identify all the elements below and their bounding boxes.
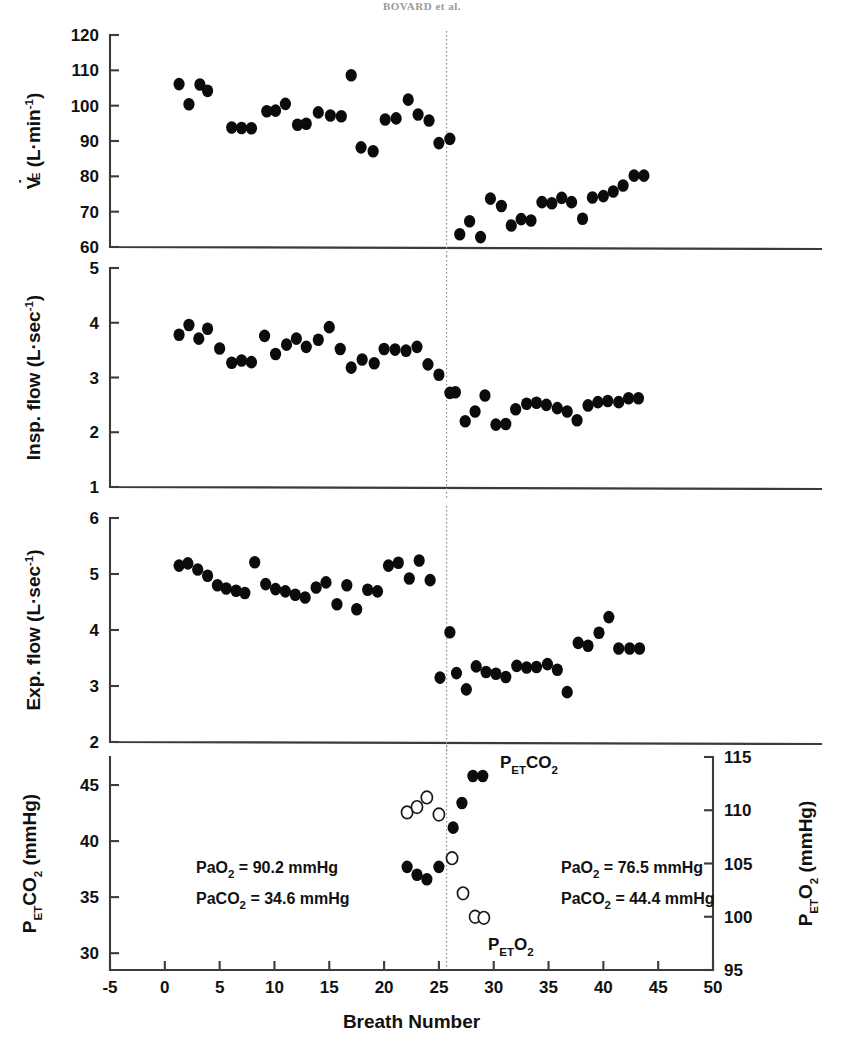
data-point-expiratory-flow (260, 578, 271, 591)
data-point-minute-ventilation (433, 137, 444, 150)
data-point-inspiratory-flow (433, 368, 444, 381)
data-point-inspiratory-flow (400, 344, 411, 357)
data-point-inspiratory-flow (193, 332, 204, 345)
y-tick-label: 4 (90, 314, 100, 333)
data-point-expiratory-flow (320, 576, 331, 589)
data-point-inspiratory-flow (259, 330, 270, 343)
data-point-inspiratory-flow (183, 319, 194, 332)
data-point-petco2 (421, 873, 432, 886)
data-point-expiratory-flow (542, 658, 553, 671)
figure-canvas: 60708090100110120V˙E (L·min-1)12345Insp.… (0, 0, 844, 1055)
data-point-minute-ventilation (577, 212, 588, 225)
data-point-minute-ventilation (226, 121, 237, 134)
data-point-minute-ventilation (566, 196, 577, 209)
panel-end-tidal-gases-ylabel: PETCO2 (mmHg) (19, 794, 44, 933)
data-point-inspiratory-flow (378, 343, 389, 356)
y-tick-label: 4 (90, 621, 100, 640)
data-point-inspiratory-flow (592, 396, 603, 409)
data-point-expiratory-flow (192, 563, 203, 576)
data-point-minute-ventilation (525, 214, 536, 227)
data-point-inspiratory-flow (490, 418, 501, 431)
x-tick-label: 40 (594, 978, 613, 997)
data-point-inspiratory-flow (346, 361, 357, 374)
y-tick-label: 35 (80, 888, 99, 907)
data-point-expiratory-flow (471, 660, 482, 673)
pao2-pre-line2: PaCO2 = 34.6 mmHg (196, 890, 350, 911)
data-point-expiratory-flow (280, 585, 291, 598)
data-point-expiratory-flow (490, 667, 501, 680)
data-point-inspiratory-flow (357, 353, 368, 366)
data-point-inspiratory-flow (335, 343, 346, 356)
x-axis-label: Breath Number (343, 1011, 481, 1032)
data-point-peto2 (457, 887, 468, 900)
y-tick-label-right: 110 (724, 801, 751, 820)
figure-svg: 60708090100110120V˙E (L·min-1)12345Insp.… (0, 0, 844, 1055)
data-point-minute-ventilation (516, 213, 527, 226)
x-tick-label: 25 (429, 978, 448, 997)
panel-inspiratory-flow-ylabel: Insp. flow (L·sec-1) (23, 295, 44, 460)
y-tick-label-right: 100 (724, 908, 752, 927)
data-point-minute-ventilation (202, 85, 213, 98)
data-point-inspiratory-flow (411, 341, 422, 354)
data-point-expiratory-flow (593, 627, 604, 640)
data-point-minute-ventilation (412, 108, 423, 121)
data-point-expiratory-flow (552, 663, 563, 676)
data-point-minute-ventilation (587, 191, 598, 204)
data-point-inspiratory-flow (613, 396, 624, 409)
data-point-expiratory-flow (582, 639, 593, 652)
data-point-expiratory-flow (182, 557, 193, 570)
data-point-inspiratory-flow (226, 356, 237, 369)
data-point-expiratory-flow (249, 556, 260, 569)
data-point-petco2 (477, 770, 488, 783)
data-point-minute-ventilation (617, 179, 628, 192)
data-point-expiratory-flow (425, 574, 436, 587)
data-point-expiratory-flow (383, 559, 394, 572)
data-point-inspiratory-flow (291, 332, 302, 345)
data-point-peto2 (433, 808, 444, 821)
y-tick-label: 40 (80, 832, 99, 851)
data-point-expiratory-flow (311, 581, 322, 594)
data-point-minute-ventilation (368, 145, 379, 158)
data-point-inspiratory-flow (552, 402, 563, 415)
data-point-petco2 (402, 861, 413, 874)
data-point-expiratory-flow (290, 588, 301, 601)
y-tick-label: 60 (80, 238, 99, 257)
y-tick-label: 120 (71, 26, 99, 45)
data-point-inspiratory-flow (582, 399, 593, 412)
data-point-expiratory-flow (221, 582, 232, 595)
y-tick-label: 5 (90, 259, 99, 278)
data-point-minute-ventilation (628, 169, 639, 182)
y-tick-label: 2 (90, 423, 99, 442)
data-point-minute-ventilation (496, 200, 507, 213)
data-point-inspiratory-flow (633, 392, 644, 405)
y-tick-label: 80 (80, 167, 99, 186)
data-point-petco2 (448, 821, 459, 834)
data-point-expiratory-flow (480, 666, 491, 679)
x-tick-label: 35 (539, 978, 558, 997)
data-point-expiratory-flow (461, 683, 472, 696)
data-point-inspiratory-flow (324, 321, 335, 334)
data-point-minute-ventilation (444, 133, 455, 146)
y-tick-label-right: 95 (724, 961, 743, 980)
data-point-minute-ventilation (556, 192, 567, 205)
data-point-minute-ventilation (301, 117, 312, 130)
data-point-inspiratory-flow (270, 348, 281, 361)
data-point-expiratory-flow (404, 572, 415, 585)
data-point-minute-ventilation (336, 110, 347, 123)
data-point-minute-ventilation (313, 106, 324, 119)
data-point-minute-ventilation (598, 190, 609, 203)
data-point-peto2 (411, 801, 422, 814)
data-point-expiratory-flow (573, 637, 584, 650)
data-point-inspiratory-flow (479, 389, 490, 402)
data-point-expiratory-flow (603, 611, 614, 624)
data-point-inspiratory-flow (173, 328, 184, 341)
data-point-minute-ventilation (546, 197, 557, 210)
data-point-expiratory-flow (362, 583, 373, 596)
data-point-expiratory-flow (634, 642, 645, 655)
x-tick-label: 20 (375, 978, 394, 997)
data-point-minute-ventilation (380, 113, 391, 126)
y-tick-label: 45 (80, 776, 99, 795)
x-tick-label: 30 (484, 978, 503, 997)
data-point-expiratory-flow (511, 660, 522, 673)
data-point-inspiratory-flow (301, 341, 312, 354)
